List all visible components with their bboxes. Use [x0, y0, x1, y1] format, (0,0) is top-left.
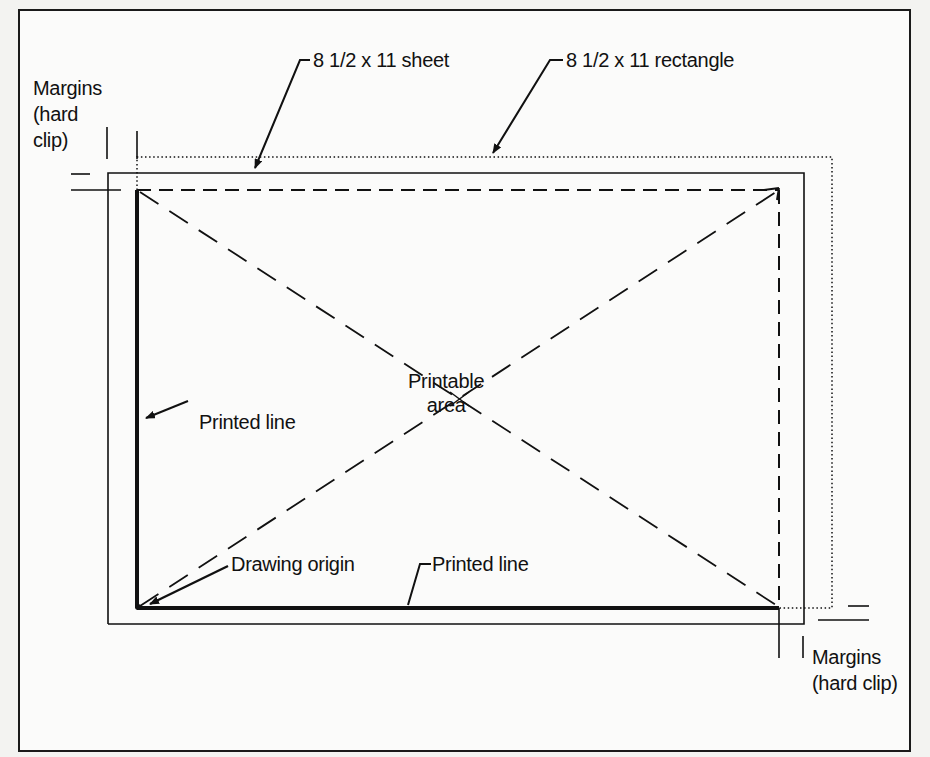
drawing-origin-marker [135, 604, 141, 610]
sheet-label: 8 1/2 x 11 sheet [313, 48, 449, 72]
printable-area-label: Printable area [408, 369, 484, 417]
drawing-origin-label: Drawing origin [231, 552, 355, 576]
printed-line-left-leader-arrow [146, 401, 188, 418]
sheet-leader-arrow [255, 60, 310, 168]
margins-hard-clip-top-left-label: Margins (hard clip) [33, 75, 102, 153]
scanned-page: Margins (hard clip) 8 1/2 x 11 sheet 8 1… [0, 0, 930, 757]
printed-line-bottom-label: Printed line [432, 552, 528, 576]
rectangle-label: 8 1/2 x 11 rectangle [566, 48, 734, 72]
drawing-origin-leader-arrow [150, 566, 228, 604]
margins-hard-clip-bottom-right-label: Margins (hard clip) [812, 644, 898, 696]
rectangle-leader-arrow [493, 60, 563, 153]
printed-line-left-label: Printed line [199, 410, 295, 434]
printed-line-bottom-leader-arrow [408, 564, 431, 605]
